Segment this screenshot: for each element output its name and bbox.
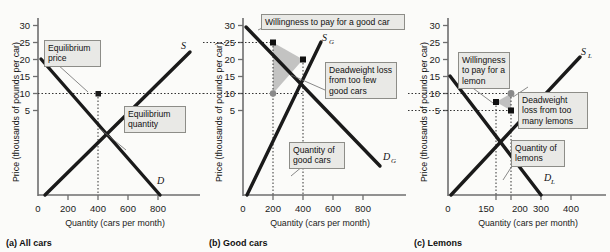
note-deadweight-loss-many-lemons[interactable]: Deadweight loss from too many lemons [518,92,588,129]
xtick-b-800: 800 [355,203,371,214]
leader-deadweight-b [291,75,325,90]
xtick-c-300: 300 [533,203,549,214]
xtick-a-600: 600 [120,203,136,214]
supply-quantity-point-b [270,90,276,96]
willingness-point-c [508,108,514,114]
ytick-a-30: 30 [19,20,30,31]
supply-label-b: S [322,32,327,43]
ytick-a-25: 25 [19,37,30,48]
demand-label-sub-c: L [550,178,555,186]
ytick-a-10: 10 [19,88,30,99]
x-axis-title-b: Quantity (cars per month) [270,218,370,228]
x-axis-title-a: Quantity (cars per month) [65,218,165,228]
xtick-a-400: 400 [90,203,106,214]
ytick-b-10: 10 [224,88,235,99]
panel-lemons: Price (thousands of pounds per car) 30 2… [408,0,610,252]
xtick-c-200: 200 [512,203,528,214]
note-equilibrium-quantity[interactable]: Equilibrium quantity [124,106,186,133]
xtick-a-0: 0 [35,203,40,214]
note-deadweight-loss-few-good-cars[interactable]: Deadweight loss from too few good cars [325,62,397,99]
plot-area-b: 30 25 20 15 10 5 0 200 400 600 800 Quant… [203,0,410,252]
note-quantity-of-good-cars[interactable]: Quantity of good cars [289,142,345,169]
ytick-c-20: 20 [429,54,440,65]
ytick-c-25: 25 [429,37,440,48]
xtick-b-200: 200 [265,203,281,214]
ytick-b-25: 25 [224,37,235,48]
equilibrium-point-a [96,91,102,97]
caption-panel-c: (c) Lemons [414,238,462,248]
xtick-b-600: 600 [325,203,341,214]
note-equilibrium-price[interactable]: Equilibrium price [44,40,101,67]
leader-equilibrium-price-a [57,64,88,92]
xtick-a-800: 800 [150,203,166,214]
ytick-b-30: 30 [224,20,235,31]
ytick-c-15: 15 [429,71,440,82]
supply-label-a: S [181,40,186,51]
demand-label-sub-b: G [391,157,396,165]
supply-label-c: S [581,46,586,57]
note-willingness-to-pay-lemon[interactable]: Willingness to pay for a lemon [458,52,510,89]
xtick-c-0: 0 [445,203,450,214]
supply-label-sub-b: G [329,38,334,46]
xtick-c-400: 400 [563,203,579,214]
panel-good-cars: Price (thousands of pounds per car) 30 2… [203,0,410,252]
xtick-a-200: 200 [60,203,76,214]
figure-sheet: Price (thousands of pounds per car) 30 2… [0,0,610,252]
note-quantity-of-lemons[interactable]: Quantity of lemons [511,140,565,167]
demand-label-a: D [156,175,165,186]
ytick-b-5: 5 [230,105,235,116]
caption-panel-b: (b) Good cars [209,238,268,248]
panel-all-cars: Price (thousands of pounds per car) 30 2… [0,0,205,252]
ytick-b-15: 15 [224,71,235,82]
supply-point-c [508,90,515,97]
supply-label-sub-c: L [587,52,592,60]
xtick-b-400: 400 [295,203,311,214]
ytick-c-10: 10 [429,88,440,99]
demand-label-b: D [382,151,391,162]
x-axis-title-c: Quantity (cars per month) [478,218,578,228]
equilibrium-point-c [493,99,499,105]
ytick-a-20: 20 [19,54,30,65]
xtick-b-0: 0 [240,203,245,214]
ytick-a-15: 15 [19,71,30,82]
equilibrium-point-b [300,57,306,63]
xtick-c-150: 150 [478,203,494,214]
ytick-b-20: 20 [224,54,235,65]
willingness-point-b [270,40,276,46]
ytick-c-30: 30 [429,20,440,31]
caption-panel-a: (a) All cars [6,238,52,248]
ytick-a-5: 5 [25,105,30,116]
note-willingness-to-pay-good-car[interactable]: Willingness to pay for a good car [261,14,405,30]
